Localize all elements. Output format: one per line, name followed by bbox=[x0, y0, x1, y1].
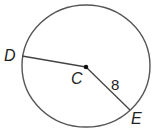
label-e: E bbox=[131, 110, 142, 127]
label-radius-length: 8 bbox=[111, 76, 119, 93]
radius-cd bbox=[22, 56, 86, 67]
label-d: D bbox=[4, 47, 16, 64]
circle-diagram: D C 8 E bbox=[0, 0, 164, 133]
radius-ce bbox=[86, 67, 130, 110]
center-point bbox=[84, 65, 89, 70]
label-c: C bbox=[71, 70, 83, 87]
